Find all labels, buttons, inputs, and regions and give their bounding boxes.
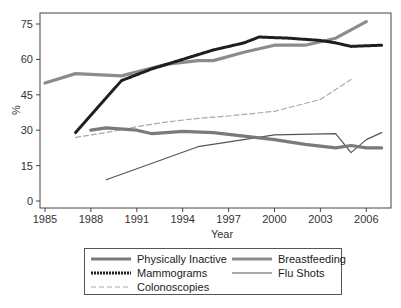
x-axis-title: Year — [211, 228, 234, 240]
legend-label: Colonoscopies — [137, 281, 209, 293]
x-tick-label: 1988 — [79, 213, 103, 225]
legend-item-mammograms: Mammograms — [91, 267, 207, 279]
x-tick-label: 2006 — [354, 213, 378, 225]
legend-swatch-dotted-icon — [91, 270, 131, 276]
legend-item-physically-inactive: Physically Inactive — [91, 253, 227, 265]
legend-label: Physically Inactive — [137, 253, 227, 265]
y-tick-label: 60 — [21, 53, 33, 65]
chart-legend: Physically Inactive Breastfeeding Mammog… — [84, 248, 342, 295]
y-tick-label: 45 — [21, 89, 33, 101]
legend-swatch-solid-thick-icon — [91, 256, 131, 262]
x-tick-label: 2003 — [308, 213, 332, 225]
y-tick-label: 15 — [21, 160, 33, 172]
y-tick-label: 0 — [27, 195, 33, 207]
y-axis-title: % — [10, 105, 22, 115]
legend-label: Mammograms — [137, 267, 207, 279]
x-tick-label: 2000 — [262, 213, 286, 225]
y-tick-label: 75 — [21, 18, 33, 30]
legend-item-colonoscopies: Colonoscopies — [91, 281, 209, 293]
legend-label: Flu Shots — [278, 267, 324, 279]
x-tick-label: 1997 — [216, 213, 240, 225]
legend-item-flu-shots: Flu Shots — [232, 267, 324, 279]
x-tick-label: 1991 — [125, 213, 149, 225]
legend-swatch-thin-line-icon — [232, 270, 272, 276]
legend-item-breastfeeding: Breastfeeding — [232, 253, 346, 265]
legend-swatch-dashed-icon — [91, 284, 131, 290]
x-tick-label: 1985 — [33, 213, 57, 225]
legend-label: Breastfeeding — [278, 253, 346, 265]
y-tick-label: 30 — [21, 124, 33, 136]
legend-swatch-thick-gray-icon — [232, 256, 272, 262]
x-tick-label: 1994 — [170, 213, 194, 225]
